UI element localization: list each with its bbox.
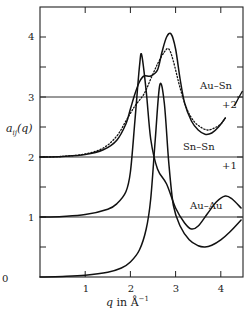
y-axis-title: aij(q): [6, 123, 33, 137]
label-au-sn: Au–Sn: [200, 81, 232, 91]
xtick-label-3: 3: [173, 284, 179, 294]
chart-canvas: [0, 0, 248, 312]
label-sn-sn-offset: +1: [222, 161, 237, 171]
x-axis-symbol: q: [106, 296, 113, 309]
xtick-label-1: 1: [83, 284, 89, 294]
ytick-label-0: 0: [2, 274, 8, 284]
x-axis-unit: in Å: [113, 296, 139, 309]
ytick-label-1: 1: [28, 213, 34, 223]
curve-au-au: [40, 83, 241, 277]
curve-au-sn: [40, 33, 225, 157]
y-axis-argument: (q): [17, 122, 33, 135]
xtick-label-4: 4: [218, 284, 224, 294]
offset-baselines: [40, 97, 243, 217]
label-au-sn-offset: +2: [222, 100, 237, 110]
x-axis-title: q in Å−1: [106, 296, 149, 308]
ytick-label-3: 3: [28, 93, 34, 103]
label-sn-sn: Sn–Sn: [183, 142, 215, 152]
label-au-au: Au–Au: [190, 201, 222, 211]
xtick-label-2: 2: [128, 284, 134, 294]
ytick-label-4: 4: [28, 32, 34, 42]
ytick-label-2: 2: [28, 153, 34, 163]
curves: [40, 33, 242, 277]
x-axis-unit-exponent: −1: [139, 295, 149, 303]
